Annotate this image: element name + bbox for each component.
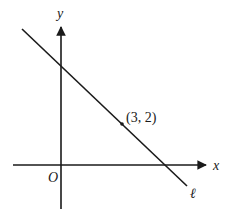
y-axis-label: y	[55, 6, 64, 21]
coordinate-diagram: y x O ℓ (3, 2)	[0, 0, 233, 216]
line-l	[22, 29, 187, 186]
point-3-2	[120, 122, 124, 126]
x-axis-label: x	[212, 158, 220, 173]
point-label: (3, 2)	[126, 110, 157, 126]
line-label: ℓ	[190, 186, 196, 201]
origin-label: O	[48, 170, 58, 185]
